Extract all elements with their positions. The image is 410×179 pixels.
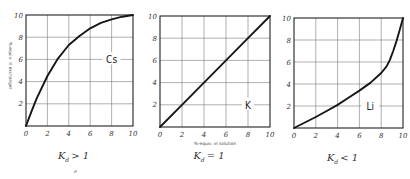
series-label-cs: Cs: [106, 54, 117, 65]
kd-caption: Kd= 1: [192, 150, 224, 163]
x-tick-label: 6: [88, 130, 93, 138]
x-tick-label: 10: [266, 131, 275, 139]
x-axis-label: %-equiv. in solution: [194, 141, 236, 146]
y-tick-label: 6: [153, 57, 158, 65]
chart-li: Li0246810246810Kd< 1: [282, 15, 408, 166]
x-tick-label: 10: [129, 130, 138, 138]
kd-caption: Kd< 1: [326, 152, 358, 165]
y-tick-label: 10: [148, 13, 157, 21]
y-tick-label: 8: [19, 34, 24, 42]
x-tick-label: 6: [357, 132, 362, 140]
y-tick-label: 10: [14, 12, 23, 20]
x-tick-label: 4: [66, 130, 71, 138]
curve-li: [294, 18, 403, 128]
y-tick-label: 6: [287, 59, 292, 67]
x-tick-label: 8: [109, 130, 114, 138]
gridlines: [294, 18, 403, 128]
x-tick-label: 8: [246, 131, 251, 139]
y-tick-label: 2: [152, 101, 158, 109]
y-tick-label: 2: [286, 103, 292, 111]
y-tick-label: 4: [18, 78, 23, 86]
x-tick-label: 0: [292, 132, 297, 140]
y-tick-label: 8: [287, 37, 292, 45]
y-tick-label: 10: [282, 15, 291, 23]
x-tick-label: 4: [201, 131, 206, 139]
x-tick-label: 6: [224, 131, 229, 139]
plot-frame: [294, 18, 403, 128]
footnote-mark: e: [74, 168, 77, 174]
x-tick-label: 4: [334, 132, 339, 140]
chart-cs: Cs0246810246810%-equiv. in exchangerKd> …: [8, 12, 138, 175]
y-tick-label: 4: [152, 79, 157, 87]
x-tick-label: 8: [379, 132, 384, 140]
y-tick-label: 2: [18, 100, 24, 108]
y-tick-label: 6: [19, 56, 24, 64]
y-axis-label: %-equiv. in exchanger: [8, 42, 13, 90]
x-tick-label: 0: [24, 130, 29, 138]
curve-k: [160, 16, 270, 127]
plot-frame: [26, 15, 133, 126]
x-tick-label: 2: [313, 132, 319, 140]
y-tick-label: 8: [153, 35, 158, 43]
kd-caption: Kd> 1: [57, 150, 89, 163]
chart-k: K0246810246810%-equiv. in solutionKd= 1: [148, 13, 275, 164]
x-tick-label: 2: [44, 130, 50, 138]
y-tick-label: 4: [286, 81, 291, 89]
series-label-li: Li: [367, 101, 375, 112]
x-tick-label: 2: [179, 131, 185, 139]
x-tick-label: 10: [399, 132, 408, 140]
x-tick-label: 0: [158, 131, 163, 139]
gridlines: [26, 15, 133, 126]
isotherm-charts: Cs0246810246810%-equiv. in exchangerKd> …: [0, 0, 410, 179]
curve-cs: [26, 15, 133, 126]
figure-three-isotherms: Cs0246810246810%-equiv. in exchangerKd> …: [0, 0, 410, 179]
